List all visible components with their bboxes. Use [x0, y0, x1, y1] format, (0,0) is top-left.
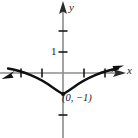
curve-left-arrowhead	[2, 71, 16, 80]
y-axis-label: y	[69, 2, 74, 13]
plot-canvas	[0, 0, 138, 138]
x-axis-label: x	[127, 65, 132, 76]
graph-figure: y x 1 (0, −1)	[0, 0, 138, 138]
y-tick-label-one: 1	[51, 46, 57, 57]
vertex-point-label: (0, −1)	[62, 93, 92, 104]
